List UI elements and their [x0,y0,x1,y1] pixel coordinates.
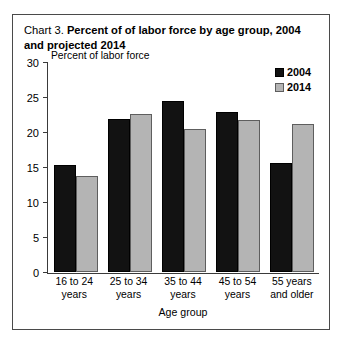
plot-area: Percent of labor force 051015202530 2004… [47,63,319,274]
bar-2014[interactable] [130,114,152,271]
x-axis-label: 55 years and older [265,276,319,301]
bar-2004[interactable] [270,163,292,271]
legend-swatch-icon [275,83,284,92]
bar-group [49,63,103,272]
bar-group [211,63,265,272]
legend-item[interactable]: 2004 [275,67,311,78]
bar-2014[interactable] [292,124,314,271]
legend-label: 2014 [287,82,311,93]
y-axis-tick: 20 [43,132,48,133]
bar-2014[interactable] [238,120,260,272]
x-axis-label: 45 to 54 years [210,276,264,301]
x-axis-label: 25 to 34 years [101,276,155,301]
legend-item[interactable]: 2014 [275,82,311,93]
y-axis-tick: 5 [43,237,48,238]
y-axis-tick-label: 30 [27,57,39,69]
y-axis-tick: 15 [43,167,48,168]
y-axis-tick-label: 10 [27,197,39,209]
bar-2004[interactable] [54,165,76,271]
plot-frame: 051015202530 [47,63,319,274]
bar-group [157,63,211,272]
chart-title-label: Chart 3. [24,24,64,36]
legend-label: 2004 [287,67,311,78]
y-axis-tick-label: 0 [33,267,39,279]
chart-title: Chart 3. Percent of of labor force by ag… [24,23,316,52]
x-axis-caption: Age group [47,306,319,318]
y-axis-caption: Percent of labor force [51,50,149,61]
bar-2004[interactable] [216,112,238,272]
y-axis-tick: 30 [43,62,48,63]
x-axis-labels: 16 to 24 years25 to 34 years35 to 44 yea… [47,276,319,301]
bar-group [265,63,319,272]
legend-swatch-icon [275,68,284,77]
chart-title-text: Percent of of labor force by age group, … [24,24,301,51]
x-axis-label: 35 to 44 years [156,276,210,301]
y-axis-tick: 10 [43,202,48,203]
y-axis-tick: 0 [43,272,48,273]
bar-2004[interactable] [162,101,184,271]
y-axis-tick-label: 25 [27,92,39,104]
bar-2014[interactable] [76,176,98,271]
y-axis-tick-label: 5 [33,232,39,244]
bar-2014[interactable] [184,129,206,272]
chart-figure: Chart 3. Percent of of labor force by ag… [12,14,330,330]
y-axis-tick-label: 15 [27,162,39,174]
bar-2004[interactable] [108,119,130,272]
y-axis-tick-label: 20 [27,127,39,139]
x-axis-label: 16 to 24 years [47,276,101,301]
bar-group [103,63,157,272]
y-axis-tick: 25 [43,97,48,98]
chart-legend: 20042014 [275,67,311,93]
bar-groups [49,63,319,272]
